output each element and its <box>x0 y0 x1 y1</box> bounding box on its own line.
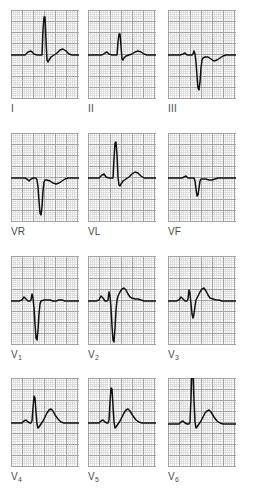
ecg-sheet: IIIIIIVRVLVFV1V2V3V4V5V6 <box>0 0 254 494</box>
ecg-lead-cell-vr: VR <box>11 133 79 256</box>
lead-label-text: VL <box>88 226 101 237</box>
ecg-lead-cell-v6: V6 <box>168 378 236 494</box>
ecg-trace-v6 <box>168 378 236 428</box>
ecg-grid-fine <box>168 378 236 467</box>
ecg-lead-label-ii: II <box>88 103 94 114</box>
ecg-lead-label-vl: VL <box>88 226 101 237</box>
ecg-panel-i <box>11 10 79 99</box>
ecg-trace-v3 <box>168 288 236 318</box>
lead-label-text: VR <box>11 226 25 237</box>
ecg-lead-cell-i: I <box>11 10 79 133</box>
ecg-trace-v4 <box>11 396 79 428</box>
ecg-lead-cell-vl: VL <box>88 133 156 256</box>
ecg-panel-v4 <box>11 378 79 467</box>
ecg-lead-cell-ii: II <box>88 10 156 133</box>
ecg-lead-row: VRVLVF <box>0 133 254 256</box>
lead-label-subscript: 5 <box>95 476 99 483</box>
ecg-lead-label-v6: V6 <box>168 471 179 483</box>
ecg-panel-iii <box>168 10 236 99</box>
ecg-lead-label-vr: VR <box>11 226 25 237</box>
lead-label-text: I <box>11 103 14 114</box>
ecg-lead-label-v5: V5 <box>88 471 99 483</box>
lead-label-text: V <box>168 471 175 482</box>
ecg-lead-label-v2: V2 <box>88 349 99 361</box>
lead-label-text: V <box>168 349 175 360</box>
ecg-lead-cell-v2: V2 <box>88 256 156 379</box>
ecg-panel-vf <box>168 133 236 222</box>
ecg-lead-label-v3: V3 <box>168 349 179 361</box>
lead-label-text: V <box>88 349 95 360</box>
lead-label-text: VF <box>168 226 181 237</box>
lead-label-text: II <box>88 103 94 114</box>
ecg-panel-v1 <box>11 256 79 345</box>
ecg-lead-label-vf: VF <box>168 226 181 237</box>
ecg-lead-cell-v3: V3 <box>168 256 236 379</box>
ecg-trace-i <box>11 17 79 62</box>
lead-label-subscript: 6 <box>175 476 179 483</box>
ecg-lead-row: V4V5V6 <box>0 378 254 494</box>
ecg-panel-vr <box>11 133 79 222</box>
ecg-panel-vl <box>88 133 156 222</box>
lead-label-text: III <box>168 103 177 114</box>
ecg-lead-label-i: I <box>11 103 14 114</box>
lead-label-text: V <box>11 471 18 482</box>
ecg-panel-v3 <box>168 256 236 345</box>
ecg-lead-row: V1V2V3 <box>0 256 254 379</box>
ecg-lead-row: IIIIII <box>0 10 254 133</box>
ecg-panel-ii <box>88 10 156 99</box>
ecg-trace-iii <box>168 51 236 90</box>
ecg-panel-v2 <box>88 256 156 345</box>
lead-label-text: V <box>11 349 18 360</box>
ecg-panel-v6 <box>168 378 236 467</box>
ecg-lead-label-v4: V4 <box>11 471 22 483</box>
ecg-lead-cell-vf: VF <box>168 133 236 256</box>
ecg-lead-label-iii: III <box>168 103 177 114</box>
ecg-lead-cell-v1: V1 <box>11 256 79 379</box>
ecg-lead-cell-v5: V5 <box>88 378 156 494</box>
lead-label-subscript: 2 <box>95 354 99 361</box>
ecg-panel-v5 <box>88 378 156 467</box>
ecg-lead-cell-v4: V4 <box>11 378 79 494</box>
lead-label-text: V <box>88 471 95 482</box>
ecg-trace-v2 <box>88 288 156 342</box>
lead-label-subscript: 3 <box>175 354 179 361</box>
lead-label-subscript: 4 <box>18 476 22 483</box>
lead-label-subscript: 1 <box>18 354 22 361</box>
ecg-lead-cell-iii: III <box>168 10 236 133</box>
ecg-lead-label-v1: V1 <box>11 349 22 361</box>
